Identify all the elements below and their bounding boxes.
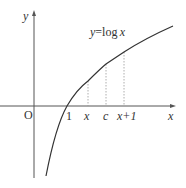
x-axis-arrow-icon	[170, 104, 176, 108]
function-label-fn: log	[102, 25, 117, 39]
function-label: y=log x	[90, 26, 125, 38]
tick-label-1: 1	[66, 110, 72, 122]
tick-label-x-plus-1: x+1	[117, 110, 136, 122]
log-curve	[46, 26, 173, 176]
y-axis-arrow-icon	[32, 10, 36, 16]
function-label-var: x	[120, 25, 125, 39]
y-axis-label: y	[23, 10, 28, 22]
x-axis-label: x	[168, 110, 173, 122]
tick-label-c: c	[103, 110, 108, 122]
tick-label-x: x	[84, 110, 89, 122]
origin-label: O	[24, 109, 33, 121]
